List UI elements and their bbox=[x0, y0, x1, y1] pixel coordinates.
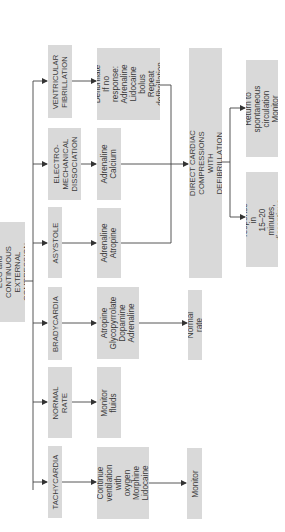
rhythm-asystole-box: ASYSTOLE bbox=[48, 207, 62, 278]
outcome-label: Return to spontaneous circulation Monito… bbox=[246, 85, 278, 132]
rhythm-label: TACHYCARDIA bbox=[51, 455, 60, 510]
escalation-label: NO RESPONSE IN 5 MINUTES DIRECT CARDIAC … bbox=[189, 130, 222, 196]
rhythm-bradycardia-box: BRADYCARDIA bbox=[48, 287, 62, 360]
no-response-escalation-box: NO RESPONSE IN 5 MINUTES DIRECT CARDIAC … bbox=[189, 48, 222, 278]
rhythm-label: ELECTRO- MECHANICAL DISSOCIATION bbox=[51, 136, 78, 191]
outcome-label: Monitor bbox=[190, 470, 199, 497]
root-ecg-label: ECG and CONTINUOUS EXTERNAL COMPRESSION bbox=[0, 243, 25, 301]
treatment-label: Atropine Glycopyrrolate Dopamine Adrenal… bbox=[100, 297, 136, 350]
rhythm-label: ASYSTOLE bbox=[51, 222, 60, 263]
treatment-emd-box: Adrenaline Calcium bbox=[97, 128, 121, 200]
outcome-normal-rate-box: Normal rate bbox=[188, 290, 202, 360]
treatment-label: Adrenaline Atropine bbox=[100, 223, 118, 262]
rhythm-label: BRADYCARDIA bbox=[51, 296, 60, 352]
treatment-vf-box: Defibrillate If no response: Adrenaline … bbox=[97, 48, 160, 120]
treatment-label: Monitor fluids bbox=[100, 389, 118, 416]
rhythm-emd-box: ELECTRO- MECHANICAL DISSOCIATION bbox=[48, 128, 81, 200]
treatment-label: Adrenaline Calcium bbox=[100, 144, 118, 183]
root-ecg-box: ECG and CONTINUOUS EXTERNAL COMPRESSION bbox=[0, 222, 25, 322]
rhythm-ventricular-fibrillation-box: VENTRICULAR FIBRILLATION bbox=[48, 45, 72, 118]
treatment-asystole-box: Adrenaline Atropine bbox=[97, 208, 121, 278]
outcome-monitor-box: Monitor bbox=[187, 448, 202, 519]
outcome-discontinue-cpr-box: If no response in 15–20 minutes, discont… bbox=[246, 172, 278, 267]
treatment-label: Defibrillate If no response: Adrenaline … bbox=[97, 62, 160, 106]
rhythm-normal-rate-box: NORMAL RATE bbox=[48, 367, 72, 438]
outcome-rosc-box: Return to spontaneous circulation Monito… bbox=[246, 60, 278, 157]
treatment-tachycardia-box: Continue ventilation with oxygen Morphin… bbox=[97, 447, 149, 519]
outcome-label: If no response in 15–20 minutes, discont… bbox=[246, 199, 278, 240]
rhythm-label: VENTRICULAR FIBRILLATION bbox=[51, 54, 69, 109]
treatment-bradycardia-box: Atropine Glycopyrrolate Dopamine Adrenal… bbox=[97, 287, 139, 359]
treatment-normal-rate-box: Monitor fluids bbox=[97, 367, 121, 438]
cpr-flowchart: ECG and CONTINUOUS EXTERNAL COMPRESSION … bbox=[0, 0, 285, 532]
treatment-label: Continue ventilation with oxygen Morphin… bbox=[97, 465, 149, 502]
outcome-label: Normal rate bbox=[188, 312, 202, 338]
rhythm-tachycardia-box: TACHYCARDIA bbox=[48, 446, 62, 518]
rhythm-label: NORMAL RATE bbox=[51, 386, 69, 419]
